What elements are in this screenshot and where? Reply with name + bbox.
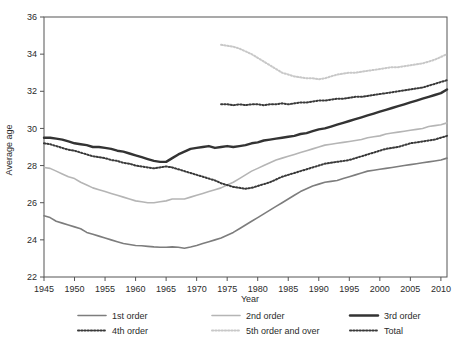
series-line-2nd-order (44, 123, 447, 203)
y-tick-label: 28 (27, 161, 37, 171)
y-tick-label: 22 (27, 272, 37, 282)
series-line-total (44, 136, 447, 189)
y-tick-label: 36 (27, 12, 37, 22)
y-tick-label: 24 (27, 235, 37, 245)
x-tick-label: 1960 (126, 284, 146, 294)
x-tick-label: 1970 (187, 284, 207, 294)
y-tick-label: 34 (27, 49, 37, 59)
y-tick-label: 26 (27, 198, 37, 208)
y-tick-label: 30 (27, 124, 37, 134)
x-axis-title: Year (241, 294, 259, 304)
legend-label: 3rd order (384, 311, 421, 321)
x-tick-label: 1955 (95, 284, 115, 294)
chart-figure: 2224262830323436 19451950195519601965197… (0, 0, 460, 346)
x-tick-label: 2010 (431, 284, 451, 294)
legend-label: 1st order (112, 311, 148, 321)
x-tick-label: 1945 (34, 284, 54, 294)
x-tick-label: 1985 (278, 284, 298, 294)
series-line-3rd-order (44, 89, 447, 161)
x-tick-label: 1990 (309, 284, 329, 294)
chart-legend: 1st order2nd order3rd order4th order5th … (78, 311, 421, 336)
series-layer (44, 45, 447, 248)
x-tick-label: 1975 (217, 284, 237, 294)
x-tick-label: 1965 (156, 284, 176, 294)
legend-label: 2nd order (246, 311, 285, 321)
x-tick-label: 2005 (400, 284, 420, 294)
x-tick-label: 2000 (370, 284, 390, 294)
y-axis-ticks: 2224262830323436 (27, 12, 44, 282)
x-tick-label: 1950 (65, 284, 85, 294)
x-tick-label: 1995 (339, 284, 359, 294)
series-line-5th-order-and-over (221, 45, 447, 79)
line-chart: 2224262830323436 19451950195519601965197… (0, 0, 460, 346)
legend-label: 4th order (112, 326, 148, 336)
series-line-1st-order (44, 158, 447, 248)
x-axis-ticks: 1945195019551960196519701975198019851990… (34, 277, 451, 294)
y-axis-title: Average age (4, 125, 14, 176)
legend-label: Total (384, 326, 403, 336)
y-tick-label: 32 (27, 86, 37, 96)
legend-label: 5th order and over (246, 326, 320, 336)
x-tick-label: 1980 (248, 284, 268, 294)
